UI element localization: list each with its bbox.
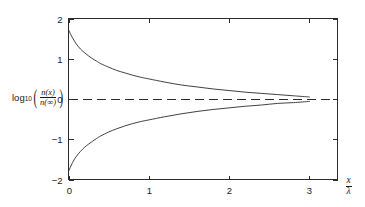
x-tick-label: 2 [227,186,232,196]
x-axis-label-denominator: λ [346,187,352,197]
x-axis-label: xλ [345,176,352,197]
x-tick-label: 0 [67,186,72,196]
y-tick-label: −2 [0,176,63,186]
y-axis-label: log10(n(x)n(∞)) [12,88,64,107]
y-axis-label-log: log [12,93,25,103]
right-paren-icon: ) [59,89,63,105]
x-tick-label: 3 [307,186,312,196]
figure-container: 0123 −2−1012 log10(n(x)n(∞)) xλ [0,0,365,207]
data-series [69,30,310,172]
lower-branch-curve [69,101,310,171]
y-axis-label-denominator: n(∞) [39,98,57,107]
y-axis-label-subscript: 10 [25,96,32,103]
left-paren-icon: ( [33,89,37,105]
y-axis-label-fraction: n(x)n(∞) [39,88,58,107]
y-tick-label: −1 [0,135,63,145]
x-tick-label: 1 [147,186,152,196]
y-tick-label: 1 [0,55,63,65]
upper-branch-curve [69,30,310,97]
x-axis-label-fraction: xλ [345,176,352,197]
y-tick-label: 2 [0,15,63,25]
